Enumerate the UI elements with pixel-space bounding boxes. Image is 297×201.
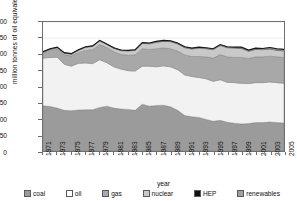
chart-legend: coaloilgasnuclearHEPrenewables — [24, 188, 280, 199]
x-minor-tick-mark — [206, 152, 207, 154]
legend-swatch-icon — [143, 190, 150, 197]
x-minor-tick-mark — [164, 152, 165, 154]
x-minor-tick-mark — [92, 152, 93, 154]
x-minor-tick-mark — [178, 152, 179, 154]
legend-item-oil[interactable]: oil — [66, 190, 82, 197]
x-tick-mark — [214, 152, 215, 155]
legend-item-nuclear[interactable]: nuclear — [143, 190, 174, 197]
x-tick-mark — [228, 152, 229, 155]
x-minor-tick-mark — [78, 152, 79, 154]
x-minor-tick-mark — [135, 152, 136, 154]
x-minor-tick-mark — [264, 152, 265, 154]
x-tick-mark — [128, 152, 129, 155]
legend-swatch-icon — [66, 190, 73, 197]
x-tick-mark — [185, 152, 186, 155]
legend-swatch-icon — [24, 190, 31, 197]
legend-label: nuclear — [152, 190, 174, 197]
x-minor-tick-mark — [63, 152, 64, 154]
y-tick-label: 200 — [0, 83, 7, 90]
x-minor-tick-mark — [221, 152, 222, 154]
y-axis-title: million tonnes of oil equivalent (mtoe) — [11, 0, 18, 98]
x-minor-tick-mark — [149, 152, 150, 154]
legend-swatch-icon — [194, 190, 201, 197]
x-tick-mark — [199, 152, 200, 155]
x-tick-mark — [113, 152, 114, 155]
stacked-area-series — [43, 22, 284, 151]
x-minor-tick-mark — [235, 152, 236, 154]
x-tick-mark — [285, 152, 286, 155]
x-tick-mark — [85, 152, 86, 155]
x-tick-mark — [171, 152, 172, 155]
x-tick-label: 2005 — [288, 147, 295, 156]
y-tick-label: 250 — [0, 67, 7, 74]
x-minor-tick-mark — [278, 152, 279, 154]
chart-figure: million tonnes of oil equivalent (mtoe) … — [0, 0, 297, 201]
x-tick-mark — [242, 152, 243, 155]
legend-swatch-icon — [237, 190, 244, 197]
x-minor-tick-mark — [249, 152, 250, 154]
y-tick-label: 300 — [0, 50, 7, 57]
x-tick-mark — [99, 152, 100, 155]
x-tick-mark — [256, 152, 257, 155]
legend-item-renewables[interactable]: renewables — [237, 190, 280, 197]
x-minor-tick-mark — [192, 152, 193, 154]
legend-label: oil — [75, 190, 82, 197]
x-axis-title: year — [42, 180, 285, 187]
legend-label: HEP — [203, 190, 217, 197]
plot-area — [42, 21, 285, 152]
y-tick-label: 100 — [0, 116, 7, 123]
x-minor-tick-mark — [121, 152, 122, 154]
legend-item-hep[interactable]: HEP — [194, 190, 217, 197]
x-tick-mark — [71, 152, 72, 155]
legend-item-gas[interactable]: gas — [102, 190, 122, 197]
legend-swatch-icon — [102, 190, 109, 197]
y-tick-label: 400 — [0, 18, 7, 25]
legend-item-coal[interactable]: coal — [24, 190, 45, 197]
x-minor-tick-mark — [49, 152, 50, 154]
legend-label: renewables — [246, 190, 280, 197]
x-tick-mark — [156, 152, 157, 155]
y-tick-label: 150 — [0, 99, 7, 106]
y-tick-label: 50 — [0, 132, 7, 139]
y-tick-label: 0 — [0, 149, 7, 156]
legend-label: coal — [33, 190, 45, 197]
legend-label: gas — [111, 190, 122, 197]
x-tick-mark — [56, 152, 57, 155]
x-tick-mark — [271, 152, 272, 155]
x-tick-mark — [42, 152, 43, 155]
x-tick-mark — [142, 152, 143, 155]
x-minor-tick-mark — [106, 152, 107, 154]
y-tick-label: 350 — [0, 34, 7, 41]
